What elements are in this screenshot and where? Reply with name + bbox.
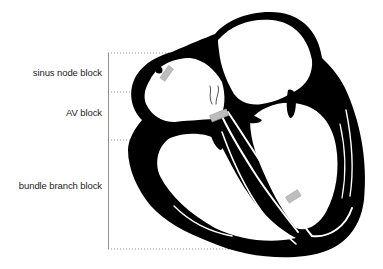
sinus-node-dot (156, 67, 163, 74)
heart-diagram (0, 0, 383, 269)
